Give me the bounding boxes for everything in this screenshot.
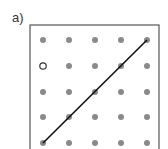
grid-dot: [118, 89, 124, 95]
diagonal-line: [43, 40, 147, 143]
grid-dot: [92, 114, 98, 120]
grid-dot: [144, 63, 150, 69]
grid-dot: [66, 89, 72, 95]
grid-dot: [66, 140, 72, 146]
grid-dot: [118, 37, 124, 43]
grid-dot: [144, 140, 150, 146]
grid-dot: [92, 140, 98, 146]
grid-dot: [66, 63, 72, 69]
grid-dot: [92, 63, 98, 69]
grid-dot: [144, 114, 150, 120]
dot-grid-diagram: [0, 0, 168, 149]
grid-dot: [118, 140, 124, 146]
grid-dot: [118, 114, 124, 120]
grid-dot: [92, 37, 98, 43]
frame-box: [30, 25, 159, 149]
open-point-icon: [40, 63, 46, 69]
grid-dot: [40, 89, 46, 95]
grid-dot: [66, 37, 72, 43]
grid-dot: [144, 89, 150, 95]
grid-dot: [40, 114, 46, 120]
grid-dot: [40, 37, 46, 43]
